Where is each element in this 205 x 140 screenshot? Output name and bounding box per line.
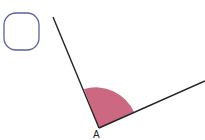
- angle-sector: [84, 87, 134, 128]
- diagram-canvas: A: [0, 0, 205, 140]
- vertex-label-a: A: [93, 130, 100, 140]
- angle-diagram: [0, 0, 205, 140]
- ray-left: [53, 17, 99, 128]
- rounded-square-shape: [4, 13, 39, 50]
